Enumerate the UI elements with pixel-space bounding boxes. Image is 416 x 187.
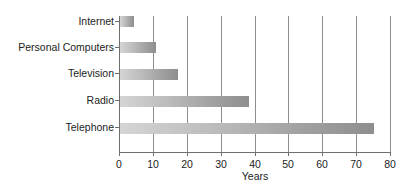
x-axis-tick-80 [390,152,391,156]
y-axis-label-personal-computers: Personal Computers [0,41,114,54]
y-axis-category-labels: Internet Personal Computers Television R… [0,0,114,187]
bar-chart: Internet Personal Computers Television R… [0,0,416,187]
x-axis-tick-10 [153,152,154,156]
bar-personal-computers [120,42,156,53]
x-axis-tick-0 [119,152,120,156]
plot-area [119,16,390,152]
y-axis-label-telephone: Telephone [0,121,114,134]
x-axis-tick-40 [255,152,256,156]
x-axis-tick-70 [356,152,357,156]
bar-internet [120,16,134,27]
bar-television [120,69,178,80]
x-axis-tick-30 [221,152,222,156]
gridline-80 [390,16,391,152]
y-axis-label-internet: Internet [0,15,114,28]
x-axis-title-text: Years [242,170,268,182]
y-axis-label-television: Television [0,67,114,80]
bar-telephone [120,123,374,134]
bar-radio [120,96,249,107]
x-axis-title: Years [0,170,416,183]
x-axis-tick-60 [322,152,323,156]
y-axis-label-radio: Radio [0,94,114,107]
x-axis-tick-20 [187,152,188,156]
x-axis-tick-50 [288,152,289,156]
